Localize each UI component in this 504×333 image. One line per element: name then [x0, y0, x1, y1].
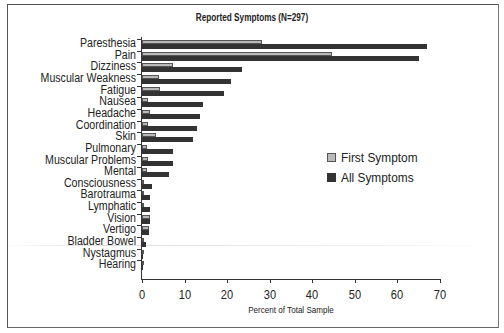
bar-row — [142, 249, 440, 260]
bar-all-symptoms — [142, 242, 146, 247]
bar-all-symptoms — [142, 230, 149, 235]
x-tick — [312, 279, 313, 283]
bar-row — [142, 109, 440, 120]
legend-swatch-all-symptoms — [327, 173, 336, 182]
bar-row — [142, 74, 440, 85]
x-tick — [355, 279, 356, 283]
bar-row — [142, 190, 440, 201]
bar-all-symptoms — [142, 56, 419, 61]
bar-row — [142, 51, 440, 62]
x-tick-label: 0 — [129, 287, 155, 302]
x-tick-label: 20 — [214, 287, 240, 302]
bar-all-symptoms — [142, 137, 193, 142]
x-tick-label: 10 — [172, 287, 198, 302]
x-tick — [227, 279, 228, 283]
x-axis — [141, 279, 441, 280]
legend: First Symptom All Symptoms — [327, 147, 428, 187]
bar-row — [142, 39, 440, 50]
chart-title: Reported Symptoms (N=297) — [45, 12, 458, 23]
x-tick — [142, 279, 143, 283]
bar-row — [142, 97, 440, 108]
x-tick-label: 60 — [385, 287, 411, 302]
bar-row — [142, 132, 440, 143]
x-tick — [397, 279, 398, 283]
legend-label-all-symptoms: All Symptoms — [341, 170, 414, 185]
bar-all-symptoms — [142, 172, 169, 177]
bar-row — [142, 121, 440, 132]
bar-all-symptoms — [142, 254, 143, 259]
bar-row — [142, 86, 440, 97]
bar-all-symptoms — [142, 114, 200, 119]
bar-all-symptoms — [142, 195, 150, 200]
x-tick-label: 50 — [342, 287, 368, 302]
bar-all-symptoms — [142, 79, 231, 84]
bar-row — [142, 202, 440, 213]
bar-all-symptoms — [142, 126, 197, 131]
bar-all-symptoms — [142, 265, 143, 270]
x-tick — [185, 279, 186, 283]
x-tick — [270, 279, 271, 283]
bar-all-symptoms — [142, 161, 173, 166]
bar-row — [142, 260, 440, 271]
x-tick — [440, 279, 441, 283]
x-tick-label: 40 — [300, 287, 326, 302]
bar-all-symptoms — [142, 67, 242, 72]
legend-item-all-symptoms: All Symptoms — [327, 167, 428, 187]
bar-all-symptoms — [142, 219, 150, 224]
bar-all-symptoms — [142, 149, 173, 154]
bar-row — [142, 237, 440, 248]
bar-row — [142, 214, 440, 225]
y-tick-label: Hearing — [17, 258, 136, 270]
legend-item-first-symptom: First Symptom — [327, 147, 428, 167]
bar-all-symptoms — [142, 184, 152, 189]
x-tick-label: 70 — [427, 287, 453, 302]
legend-swatch-first-symptom — [327, 153, 336, 162]
legend-label-first-symptom: First Symptom — [341, 150, 418, 165]
bar-all-symptoms — [142, 102, 203, 107]
bar-row — [142, 225, 440, 236]
bar-all-symptoms — [142, 207, 150, 212]
bar-all-symptoms — [142, 91, 224, 96]
bar-row — [142, 62, 440, 73]
bar-all-symptoms — [142, 44, 427, 49]
x-tick-label: 30 — [257, 287, 283, 302]
x-axis-title: Percent of Total Sample — [164, 304, 417, 315]
